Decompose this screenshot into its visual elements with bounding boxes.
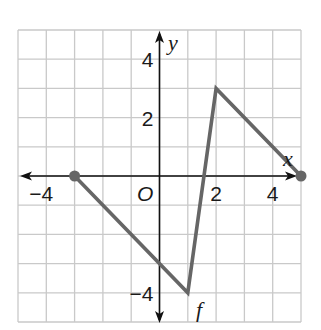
y-tick-label: −4 xyxy=(130,282,154,305)
x-axis-label: x xyxy=(282,146,293,171)
y-tick-label: 2 xyxy=(142,107,154,130)
axes xyxy=(20,31,297,323)
endpoint-closed-dot xyxy=(296,171,307,182)
x-tick-label: 4 xyxy=(267,182,279,205)
endpoint-closed-dot xyxy=(69,171,80,182)
y-tick-label: 4 xyxy=(142,48,154,71)
function-label: f xyxy=(196,297,205,322)
x-tick-label: 2 xyxy=(210,182,222,205)
x-tick-label: −4 xyxy=(29,182,53,205)
y-axis-label: y xyxy=(166,30,178,55)
coordinate-plane: y x O f −42442−4 xyxy=(0,0,321,330)
origin-label: O xyxy=(137,182,153,205)
